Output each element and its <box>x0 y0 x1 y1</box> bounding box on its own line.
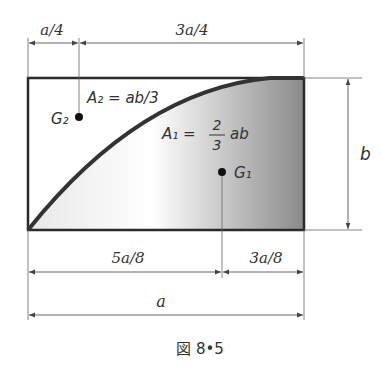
label-a1-frac-num: 2 <box>213 117 222 133</box>
label-g1: G₁ <box>234 164 252 182</box>
label-a1-prefix: A₁ = <box>161 125 196 143</box>
label-b: b <box>360 144 371 164</box>
label-a1-suffix: ab <box>230 125 249 143</box>
label-3a4: 3a/4 <box>175 21 208 39</box>
label-5a8: 5a/8 <box>111 249 144 267</box>
figure-caption: 図 8•5 <box>176 340 224 358</box>
label-a: a <box>156 292 166 311</box>
label-3a8: 3a/8 <box>249 249 282 267</box>
label-a4: a/4 <box>40 21 64 39</box>
region-a1-fill <box>28 78 304 230</box>
label-a1-frac-den: 3 <box>213 137 222 153</box>
centroid-g2-dot <box>75 113 83 121</box>
figure-canvas: a/4 3a/4 b 5a/8 3a/8 a A₂ = ab/3 G₂ A₁ =… <box>0 0 381 370</box>
label-g2: G₂ <box>51 110 69 128</box>
centroid-g1-dot <box>218 168 226 176</box>
label-a2-area: A₂ = ab/3 <box>86 89 159 107</box>
